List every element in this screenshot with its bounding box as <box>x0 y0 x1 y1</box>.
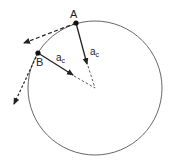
point-b-label: B <box>36 56 43 68</box>
accel-label-b: ac <box>56 52 66 64</box>
radius-b-dashed <box>74 76 95 88</box>
accel-label-a-sub: c <box>96 51 100 58</box>
point-b-dot <box>35 50 40 55</box>
tangent-vector-b <box>14 53 38 104</box>
circular-motion-diagram: A B ac ac <box>0 0 170 163</box>
point-a-dot <box>73 20 78 25</box>
point-a-label: A <box>70 8 78 20</box>
accel-label-b-sub: c <box>62 57 66 64</box>
accel-vector-a <box>76 23 87 64</box>
tangent-vector-a <box>24 23 76 43</box>
radius-a-dashed <box>88 66 95 88</box>
accel-label-a: ac <box>90 46 100 58</box>
